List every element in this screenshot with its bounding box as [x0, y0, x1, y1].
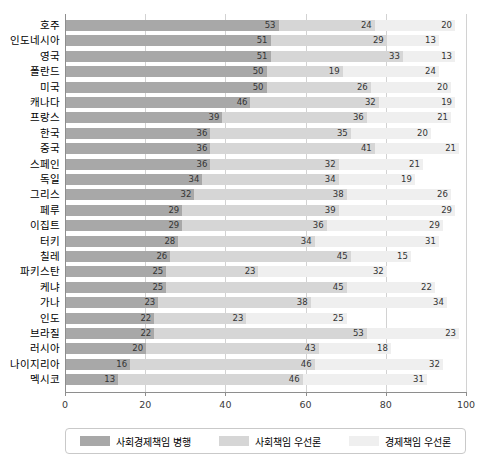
y-axis-category-label: 중국: [40, 143, 60, 154]
y-axis-category-label: 칠레: [40, 251, 60, 262]
bar-segment-value: 25: [246, 313, 346, 324]
bar-segment-value: 20: [371, 82, 451, 93]
bar-segment-value: 45: [170, 251, 350, 262]
bar-segment-value: 22: [66, 313, 154, 324]
bar-row: 폴란드501924: [66, 66, 467, 77]
legend-label: 사회책임 우선론: [255, 434, 321, 449]
bar-segment-value: 45: [166, 282, 346, 293]
x-tick: [65, 392, 66, 396]
x-tick: [306, 392, 307, 396]
bar-row: 스페인363221: [66, 159, 467, 170]
bar-row: 프랑스393621: [66, 112, 467, 123]
y-axis-category-label: 독일: [40, 174, 60, 185]
bar-segment-value: 39: [182, 205, 338, 216]
y-axis-category-label: 폴란드: [30, 66, 60, 77]
legend-item[interactable]: 사회책임 우선론: [219, 434, 321, 449]
bar-row: 인도222325: [66, 313, 467, 324]
bar-segment-value: 38: [194, 189, 346, 200]
bar-segment-value: 46: [118, 374, 302, 385]
bar-segment-value: 13: [403, 51, 455, 62]
x-tick-label: 80: [380, 399, 392, 410]
bar-segment-value: 43: [146, 343, 318, 354]
y-axis-category-label: 케냐: [40, 282, 60, 293]
bar-segment-value: 24: [343, 66, 439, 77]
y-axis-category-label: 멕시코: [30, 374, 60, 385]
bar-row: 케냐254522: [66, 282, 467, 293]
bar-row: 중국364121: [66, 143, 467, 154]
bar-row: 브라질225323: [66, 328, 467, 339]
bar-segment-value: 28: [66, 236, 178, 247]
bar-segment-value: 29: [66, 220, 182, 231]
bar-row: 나이지리아164632: [66, 359, 467, 370]
y-axis-category-label: 나이지리아: [10, 359, 60, 370]
y-axis-category-label: 인도네시아: [10, 35, 60, 46]
x-tick-label: 0: [62, 399, 68, 410]
legend-label: 사회경제책임 병행: [116, 434, 191, 449]
bar-segment-value: 36: [66, 159, 210, 170]
x-tick: [145, 392, 146, 396]
bar-segment-value: 25: [66, 266, 166, 277]
bar-segment-value: 25: [66, 282, 166, 293]
bar-segment-value: 34: [178, 236, 314, 247]
bar-segment-value: 32: [66, 189, 194, 200]
legend-item[interactable]: 사회경제책임 병행: [80, 434, 191, 449]
x-tick-label: 40: [219, 399, 231, 410]
legend-item[interactable]: 경제책임 우선론: [349, 434, 451, 449]
bar-segment-value: 21: [339, 159, 423, 170]
bar-segment-value: 51: [66, 35, 271, 46]
bar-segment-value: 15: [351, 251, 411, 262]
bar-segment-value: 20: [66, 343, 146, 354]
bar-segment-value: 36: [66, 128, 210, 139]
bar-segment-value: 53: [66, 20, 279, 31]
bar-row: 그리스323826: [66, 189, 467, 200]
legend-label: 경제책임 우선론: [385, 434, 451, 449]
chart-legend: 사회경제책임 병행사회책임 우선론경제책임 우선론: [65, 428, 466, 454]
stacked-bar-chart: 020406080100 호주532420인도네시아512913영국513313…: [0, 0, 488, 466]
bar-row: 캐나다463219: [66, 97, 467, 108]
bar-segment-value: 23: [66, 297, 158, 308]
bar-segment-value: 35: [210, 128, 350, 139]
bar-segment-value: 19: [267, 66, 343, 77]
bar-segment-value: 34: [66, 174, 202, 185]
bar-segment-value: 23: [166, 266, 258, 277]
x-tick: [225, 392, 226, 396]
bar-row: 미국502620: [66, 82, 467, 93]
y-axis-category-label: 이집트: [30, 220, 60, 231]
bar-row: 독일343419: [66, 174, 467, 185]
bar-segment-value: 33: [271, 51, 403, 62]
y-axis-category-label: 러시아: [30, 343, 60, 354]
bar-segment-value: 38: [158, 297, 310, 308]
y-axis-category-label: 한국: [40, 128, 60, 139]
bar-segment-value: 31: [303, 374, 427, 385]
bar-segment-value: 22: [66, 328, 154, 339]
bar-segment-value: 31: [315, 236, 439, 247]
bar-segment-value: 22: [347, 282, 435, 293]
bar-segment-value: 24: [279, 20, 375, 31]
bar-segment-value: 36: [182, 220, 326, 231]
legend-swatch: [349, 436, 379, 446]
y-axis-category-label: 터키: [40, 236, 60, 247]
bar-segment-value: 29: [339, 205, 455, 216]
y-axis-category-label: 인도: [40, 313, 60, 324]
bar-row: 페루293929: [66, 205, 467, 216]
bar-row: 가나233834: [66, 297, 467, 308]
bar-segment-value: 50: [66, 66, 267, 77]
bar-segment-value: 46: [130, 359, 314, 370]
y-axis-category-label: 영국: [40, 51, 60, 62]
legend-swatch: [219, 436, 249, 446]
bar-segment-value: 18: [319, 343, 391, 354]
y-axis-category-label: 파키스탄: [20, 266, 60, 277]
bar-row: 호주532420: [66, 20, 467, 31]
legend-swatch: [80, 436, 110, 446]
bar-row: 칠레264515: [66, 251, 467, 262]
bar-segment-value: 39: [66, 112, 222, 123]
bar-segment-value: 26: [66, 251, 170, 262]
bar-row: 파키스탄252332: [66, 266, 467, 277]
bar-row: 터키283431: [66, 236, 467, 247]
bar-segment-value: 26: [347, 189, 451, 200]
bar-segment-value: 36: [66, 143, 210, 154]
y-axis-category-label: 캐나다: [30, 97, 60, 108]
bar-segment-value: 20: [375, 20, 455, 31]
bar-segment-value: 51: [66, 51, 271, 62]
x-tick-label: 60: [300, 399, 312, 410]
